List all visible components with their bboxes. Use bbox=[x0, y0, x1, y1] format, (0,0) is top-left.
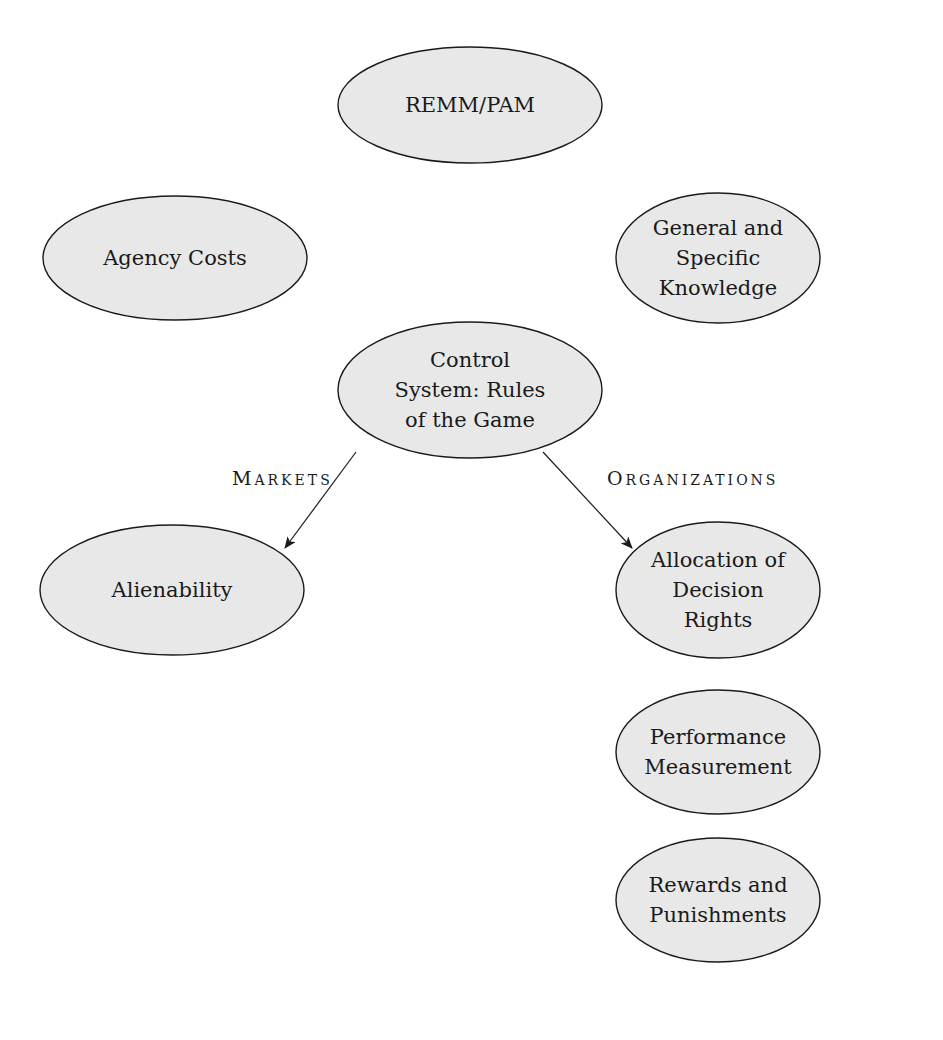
node-label: Measurement bbox=[644, 755, 792, 779]
node-label: Agency Costs bbox=[102, 246, 247, 270]
edge-label: MARKETS bbox=[232, 467, 333, 489]
node-ellipse bbox=[616, 690, 820, 814]
node-ellipse bbox=[616, 838, 820, 962]
node-label: Control bbox=[430, 348, 510, 372]
node-label: General and bbox=[653, 216, 784, 240]
node-label: of the Game bbox=[405, 408, 535, 432]
node-general-specific-knowledge: General andSpecificKnowledge bbox=[616, 193, 820, 323]
concept-diagram: MARKETSORGANIZATIONS REMM/PAMAgency Cost… bbox=[0, 0, 943, 1040]
node-remm-pam: REMM/PAM bbox=[338, 47, 602, 163]
node-agency-costs: Agency Costs bbox=[43, 196, 307, 320]
edge-label: ORGANIZATIONS bbox=[607, 467, 778, 489]
node-label: Rights bbox=[684, 608, 753, 632]
node-label: REMM/PAM bbox=[405, 93, 535, 117]
node-label: Decision bbox=[672, 578, 763, 602]
node-label: Knowledge bbox=[659, 276, 777, 300]
node-rewards-punishments: Rewards andPunishments bbox=[616, 838, 820, 962]
arrow-icon bbox=[285, 452, 356, 548]
node-label: Punishments bbox=[649, 903, 786, 927]
node-allocation-decision-rights: Allocation ofDecisionRights bbox=[616, 522, 820, 658]
node-label: Allocation of bbox=[650, 548, 787, 572]
node-label: Rewards and bbox=[648, 873, 787, 897]
node-performance-measurement: PerformanceMeasurement bbox=[616, 690, 820, 814]
node-label: Performance bbox=[650, 725, 786, 749]
node-label: System: Rules bbox=[395, 378, 546, 402]
node-label: Alienability bbox=[111, 578, 233, 602]
node-label: Specific bbox=[676, 246, 761, 270]
node-alienability: Alienability bbox=[40, 525, 304, 655]
node-control-system: ControlSystem: Rulesof the Game bbox=[338, 322, 602, 458]
nodes: REMM/PAMAgency CostsGeneral andSpecificK… bbox=[40, 47, 820, 962]
edge-control-system-to-alienability: MARKETS bbox=[232, 452, 356, 548]
